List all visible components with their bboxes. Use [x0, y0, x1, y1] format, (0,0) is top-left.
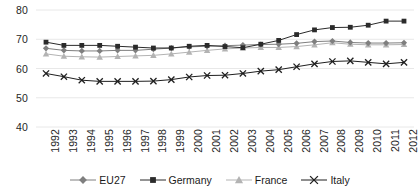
x-axis-tick-label: 2002 — [229, 129, 240, 153]
diamond-marker-icon — [311, 38, 317, 44]
square-marker-icon — [150, 177, 156, 183]
x-axis-tick-label: 2008 — [336, 129, 347, 153]
legend-item-italy[interactable]: Italy — [301, 174, 349, 186]
square-marker-icon — [241, 45, 246, 50]
x-marker-icon — [301, 174, 327, 186]
x-axis-tick-label: 1992 — [50, 129, 61, 153]
diamond-marker-icon — [293, 40, 299, 46]
x-axis-tick-label: 1998 — [157, 129, 168, 153]
diamond-marker-icon — [61, 47, 67, 53]
x-axis-tick-label: 1999 — [175, 129, 186, 153]
x-axis-tick-label: 2010 — [372, 129, 383, 153]
legend-item-eu27[interactable]: EU27 — [70, 174, 125, 186]
legend-label: Germany — [168, 174, 212, 186]
legend-label: Italy — [329, 174, 349, 186]
x-axis-tick-label: 2006 — [301, 129, 312, 153]
x-axis-tick-label: 2009 — [354, 129, 365, 153]
legend-label: France — [254, 174, 288, 186]
diamond-marker-icon — [79, 176, 87, 184]
legend-item-germany[interactable]: Germany — [140, 174, 212, 186]
y-axis-tick-label: 80 — [16, 5, 28, 16]
x-axis-tick-label: 2012 — [408, 129, 419, 153]
x-axis-tick-label: 1993 — [68, 129, 79, 153]
square-marker-icon — [312, 27, 317, 32]
x-axis-tick-label: 2007 — [319, 129, 330, 153]
legend-label: EU27 — [98, 174, 125, 186]
square-marker-icon — [348, 25, 353, 30]
y-axis-tick-label: 70 — [16, 34, 28, 45]
y-axis: 4050607080 — [0, 10, 32, 127]
square-marker-icon — [330, 25, 335, 30]
square-marker-icon — [384, 19, 389, 24]
x-axis-tick-label: 2005 — [283, 129, 294, 153]
square-marker-icon — [169, 46, 174, 51]
square-marker-icon — [223, 44, 228, 49]
square-marker-icon — [133, 45, 138, 50]
square-marker-icon — [151, 46, 156, 51]
diamond-marker-icon — [43, 45, 49, 51]
x-axis-tick-label: 1996 — [122, 129, 133, 153]
square-marker-icon — [402, 19, 407, 24]
series-layer — [36, 10, 414, 127]
square-marker-icon — [140, 174, 166, 186]
x-axis-tick-label: 2004 — [265, 129, 276, 153]
series-italy — [43, 58, 407, 85]
square-marker-icon — [62, 43, 67, 48]
x-axis-tick-label: 1994 — [86, 129, 97, 153]
y-axis-tick-label: 60 — [16, 63, 28, 74]
x-axis-tick-label: 2001 — [211, 129, 222, 153]
chart-legend: EU27GermanyFranceItaly — [0, 170, 420, 190]
x-axis-tick-label: 1997 — [140, 129, 151, 153]
square-marker-icon — [44, 40, 49, 45]
square-marker-icon — [79, 43, 84, 48]
x-axis-tick-label: 2000 — [193, 129, 204, 153]
triangle-marker-icon — [43, 51, 49, 57]
y-axis-tick-label: 40 — [16, 122, 28, 133]
x-axis-tick-label: 2003 — [247, 129, 258, 153]
diamond-marker-icon — [79, 48, 85, 54]
line-chart: 4050607080 19921993199419951996199719981… — [0, 0, 420, 193]
legend-item-france[interactable]: France — [226, 174, 288, 186]
plot-area — [36, 10, 414, 127]
square-marker-icon — [294, 32, 299, 37]
square-marker-icon — [97, 43, 102, 48]
square-marker-icon — [187, 44, 192, 49]
square-marker-icon — [258, 42, 263, 47]
square-marker-icon — [205, 43, 210, 48]
diamond-marker-icon — [97, 48, 103, 54]
x-axis: 1992199319941995199619971998199920002001… — [36, 129, 414, 165]
square-marker-icon — [366, 23, 371, 28]
triangle-marker-icon — [226, 174, 252, 186]
series-line — [46, 61, 404, 81]
diamond-marker-icon — [70, 174, 96, 186]
y-axis-tick-label: 50 — [16, 92, 28, 103]
square-marker-icon — [276, 38, 281, 43]
x-axis-tick-label: 2011 — [390, 129, 401, 152]
square-marker-icon — [115, 44, 120, 49]
x-axis-tick-label: 1995 — [104, 129, 115, 153]
